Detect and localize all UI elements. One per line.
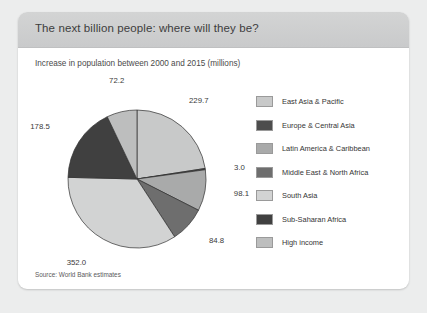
- legend-item-label: Middle East & North Africa: [282, 168, 368, 177]
- pie-slice-value-label: 229.7: [189, 96, 209, 105]
- legend-swatch: [256, 190, 273, 201]
- legend-swatch: [256, 143, 273, 154]
- legend-item[interactable]: Latin America & Caribbean: [256, 137, 401, 161]
- legend-item-label: South Asia: [282, 191, 317, 200]
- legend-item[interactable]: High income: [256, 231, 401, 255]
- legend-item-label: Sub-Saharan Africa: [282, 215, 346, 224]
- legend-swatch: [256, 214, 273, 225]
- source-note: Source: World Bank estimates: [35, 271, 121, 278]
- pie-slice-value-label: 98.1: [234, 189, 249, 198]
- chart-card: The next billion people: where will they…: [18, 12, 409, 289]
- legend-item-label: Europe & Central Asia: [282, 121, 355, 130]
- legend-item-label: Latin America & Caribbean: [282, 144, 370, 153]
- pie-slice-value-label: 72.2: [109, 76, 124, 85]
- legend-item[interactable]: Middle East & North Africa: [256, 161, 401, 185]
- legend-item-label: East Asia & Pacific: [282, 97, 344, 106]
- legend-item-label: High income: [282, 238, 323, 247]
- legend-item[interactable]: Europe & Central Asia: [256, 114, 401, 138]
- pie-slice-value-label: 84.8: [209, 236, 224, 245]
- legend-item[interactable]: East Asia & Pacific: [256, 90, 401, 114]
- pie-slice-value-label: 178.5: [30, 122, 50, 131]
- pie-slice-value-label: 3.0: [234, 163, 246, 172]
- pie-slice-value-label: 352.0: [67, 258, 87, 267]
- legend-swatch: [256, 167, 273, 178]
- legend-swatch: [256, 96, 273, 107]
- legend-swatch: [256, 120, 273, 131]
- legend-item[interactable]: Sub-Saharan Africa: [256, 208, 401, 232]
- pie-slice: [137, 110, 205, 179]
- legend-swatch: [256, 237, 273, 248]
- chart-legend: East Asia & PacificEurope & Central Asia…: [256, 90, 401, 255]
- legend-item[interactable]: South Asia: [256, 184, 401, 208]
